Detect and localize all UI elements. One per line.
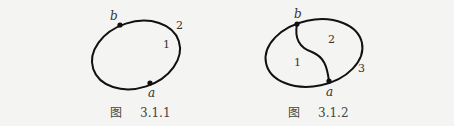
inner-s-curve-edge xyxy=(296,24,329,81)
vertex-a-label: a xyxy=(148,86,155,100)
figure-3-1-2: b a 2 1 3 xyxy=(259,7,369,99)
figure-caption-3-1-1: 图3.1.1 xyxy=(110,103,171,120)
vertex-b-label: b xyxy=(110,9,118,23)
caption-number: 3.1.2 xyxy=(318,106,349,120)
vertex-b-dot xyxy=(117,22,122,27)
edge-label-3: 3 xyxy=(358,62,365,75)
figure-caption-3-1-2: 图3.1.2 xyxy=(288,103,349,120)
vertex-b-label: b xyxy=(294,7,302,21)
figure-3-1-1: b a 2 1 xyxy=(83,9,189,100)
edge-label-1: 1 xyxy=(294,56,301,69)
vertex-b-dot xyxy=(294,21,299,26)
vertex-a-dot xyxy=(147,80,152,85)
caption-number: 3.1.1 xyxy=(140,106,171,120)
graph-figures-canvas: b a 2 1 b a 2 1 3 xyxy=(0,0,454,126)
closed-edge-ellipse xyxy=(83,10,189,101)
edge-label-2: 2 xyxy=(176,19,183,32)
textbook-figure-panel: b a 2 1 b a 2 1 3 图3.1.1 图3.1.2 xyxy=(0,0,454,126)
vertex-a-dot xyxy=(326,78,331,83)
caption-prefix: 图 xyxy=(110,106,122,120)
edge-label-2: 2 xyxy=(328,33,335,46)
caption-prefix: 图 xyxy=(288,106,300,120)
vertex-a-label: a xyxy=(326,85,333,99)
edge-label-1: 1 xyxy=(163,38,170,51)
